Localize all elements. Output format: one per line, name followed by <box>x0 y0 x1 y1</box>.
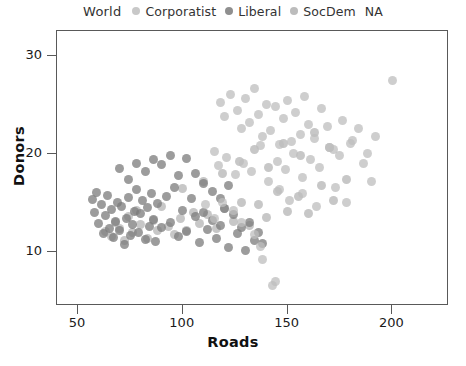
data-point <box>141 235 150 244</box>
legend-item-na[interactable]: NA <box>365 4 383 19</box>
y-axis-tick-label: 10 <box>0 243 42 258</box>
data-point <box>312 202 321 211</box>
data-point <box>247 167 256 176</box>
data-point <box>367 177 376 186</box>
data-point <box>335 151 344 160</box>
data-point <box>220 112 229 121</box>
data-point <box>182 227 191 236</box>
data-point <box>162 192 171 201</box>
data-point <box>117 202 126 211</box>
data-point <box>237 124 246 133</box>
data-point <box>250 84 259 93</box>
data-point <box>281 165 290 174</box>
y-axis-tick <box>47 251 56 252</box>
data-point <box>203 225 212 234</box>
data-point <box>222 153 231 162</box>
data-point <box>176 214 185 223</box>
data-point <box>256 141 265 150</box>
data-point <box>354 124 363 133</box>
data-point <box>231 170 240 179</box>
data-point <box>182 154 191 163</box>
data-point <box>132 185 141 194</box>
data-point <box>201 200 210 209</box>
legend-title: World <box>83 4 121 19</box>
data-point <box>143 203 152 212</box>
legend-item-liberal[interactable]: Liberal <box>225 4 281 19</box>
data-points-layer <box>57 31 447 304</box>
data-point <box>97 200 106 209</box>
data-point <box>342 198 351 207</box>
x-axis-tick <box>77 305 78 314</box>
data-point <box>291 108 300 117</box>
data-point <box>300 92 309 101</box>
x-axis-tick-label: 150 <box>265 315 309 330</box>
data-point <box>241 246 250 255</box>
data-point <box>283 96 292 105</box>
data-point <box>264 163 273 172</box>
y-axis-label: Donors <box>11 111 27 201</box>
data-point <box>88 195 97 204</box>
data-point <box>245 118 254 127</box>
data-point <box>285 196 294 205</box>
data-point <box>271 102 280 111</box>
data-point <box>283 207 292 216</box>
data-point <box>271 277 280 286</box>
x-axis-tick <box>391 305 392 314</box>
legend-label-corporatist: Corporatist <box>145 4 216 19</box>
data-point <box>90 208 99 217</box>
data-point <box>306 155 315 164</box>
x-axis-tick-label: 50 <box>55 315 99 330</box>
y-axis-tick <box>47 153 56 154</box>
data-point <box>298 189 307 198</box>
data-point <box>224 243 233 252</box>
data-point <box>388 76 397 85</box>
data-point <box>132 159 141 168</box>
data-point <box>141 167 150 176</box>
data-point <box>170 183 179 192</box>
data-point <box>229 206 238 215</box>
data-point <box>216 98 225 107</box>
legend-swatch-socdem <box>290 7 298 15</box>
data-point <box>258 255 267 264</box>
data-point <box>254 110 263 119</box>
data-point <box>317 104 326 113</box>
data-point <box>275 140 284 149</box>
data-point <box>241 94 250 103</box>
data-point <box>348 136 357 145</box>
data-point <box>124 193 133 202</box>
data-point <box>279 114 288 123</box>
data-point <box>317 181 326 190</box>
data-point <box>178 184 187 193</box>
legend-label-na: NA <box>365 4 383 19</box>
data-point <box>262 100 271 109</box>
data-point <box>323 122 332 131</box>
data-point <box>210 214 219 223</box>
data-point <box>92 188 101 197</box>
data-point <box>199 179 208 188</box>
data-point <box>371 132 380 141</box>
data-point <box>191 169 200 178</box>
legend-label-liberal: Liberal <box>238 4 281 19</box>
data-point <box>304 209 313 218</box>
data-point <box>120 240 129 249</box>
data-point <box>363 149 372 158</box>
data-point <box>342 175 351 184</box>
data-point <box>275 185 284 194</box>
data-point <box>296 130 305 139</box>
data-point <box>310 134 319 143</box>
data-point <box>254 200 263 209</box>
legend-item-socdem[interactable]: SocDem <box>290 4 356 19</box>
data-point <box>237 198 246 207</box>
data-point <box>262 213 271 222</box>
data-point <box>237 218 246 227</box>
legend-item-corporatist[interactable]: Corporatist <box>132 4 216 19</box>
data-point <box>157 160 166 169</box>
legend-label-socdem: SocDem <box>303 4 356 19</box>
y-axis-tick <box>47 55 56 56</box>
data-point <box>331 183 340 192</box>
data-point <box>258 132 267 141</box>
data-point <box>208 187 217 196</box>
data-point <box>157 223 166 232</box>
x-axis-label: Roads <box>0 334 466 350</box>
data-point <box>256 242 265 251</box>
